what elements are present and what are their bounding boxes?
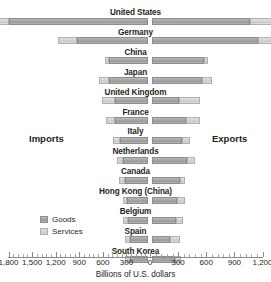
- bar-imports-goods: [9, 18, 148, 25]
- axis-tick-major: [178, 252, 179, 257]
- axis-tick-major: [56, 252, 57, 257]
- axis-tick-minor: [136, 254, 137, 257]
- bar-imports-services: [0, 18, 9, 25]
- bar-imports-goods: [109, 77, 148, 84]
- row-bars: [0, 37, 271, 44]
- row-bars: [0, 177, 271, 184]
- bar-exports-goods: [152, 18, 250, 25]
- axis-tick-minor: [257, 254, 258, 257]
- bar-exports-services: [258, 37, 271, 44]
- bar-exports-services: [177, 197, 185, 204]
- bar-imports-services: [106, 117, 115, 124]
- row-bars: [0, 97, 271, 104]
- axis-tick-major: [234, 252, 235, 257]
- country-label: Belgium: [0, 207, 271, 216]
- bar-imports-services: [58, 37, 78, 44]
- axis-tick-label: 900: [73, 258, 86, 268]
- bar-exports-services: [179, 97, 201, 104]
- axis-tick-minor: [122, 254, 123, 257]
- bar-imports-services: [113, 137, 120, 144]
- axis-tick-minor: [112, 254, 113, 257]
- legend-swatch-services: [40, 228, 48, 235]
- axis-tick-major: [103, 252, 104, 257]
- axis-tick-minor: [42, 254, 43, 257]
- country-label: Canada: [0, 167, 271, 176]
- bar-exports-services: [176, 217, 183, 224]
- bar-exports-goods: [152, 97, 179, 104]
- x-axis-title: Billions of U.S. dollars: [0, 270, 271, 279]
- country-label: Germany: [0, 28, 271, 37]
- row-bars: [0, 117, 271, 124]
- axis-tick-major: [263, 252, 264, 257]
- bar-exports-goods: [152, 77, 202, 84]
- axis-tick-minor: [51, 254, 52, 257]
- exports-direction-label: Exports: [212, 133, 247, 144]
- country-label: United Kingdom: [0, 88, 271, 97]
- axis-tick-minor: [184, 254, 185, 257]
- axis-tick-major: [79, 252, 80, 257]
- axis-tick-label: 1,200: [252, 258, 271, 268]
- bar-imports-goods: [123, 157, 148, 164]
- axis-tick-minor: [60, 254, 61, 257]
- axis-tick-major: [9, 252, 10, 257]
- axis-tick-minor: [201, 254, 202, 257]
- axis-tick-minor: [212, 254, 213, 257]
- axis-tick-minor: [93, 254, 94, 257]
- chart-row: Germany: [0, 28, 271, 48]
- country-label: China: [0, 48, 271, 57]
- bar-imports-goods: [130, 236, 148, 243]
- bar-imports-goods: [109, 57, 148, 64]
- bar-exports-services: [186, 117, 200, 124]
- chart-row: Hong Kong (China): [0, 187, 271, 207]
- row-bars: [0, 18, 271, 25]
- bar-exports-services: [202, 77, 212, 84]
- plot-area: United StatesGermanyChinaJapanUnited Kin…: [0, 8, 271, 248]
- axis-tick-minor: [131, 254, 132, 257]
- axis-tick-minor: [65, 254, 66, 257]
- axis-tick-minor: [23, 254, 24, 257]
- country-label: United States: [0, 8, 271, 17]
- axis-tick-minor: [18, 254, 19, 257]
- axis-tick-minor: [70, 254, 71, 257]
- axis-tick-minor: [84, 254, 85, 257]
- bar-imports-services: [125, 236, 130, 243]
- chart-row: Japan: [0, 68, 271, 88]
- axis-tick-label: 600: [96, 258, 109, 268]
- axis-tick-minor: [141, 254, 142, 257]
- bar-imports-services: [102, 97, 114, 104]
- bar-imports-goods: [128, 217, 148, 224]
- x-axis: 1,8001,5001,20090060030003006009001,200 …: [0, 252, 271, 282]
- axis-tick-minor: [229, 254, 230, 257]
- bar-imports-goods: [115, 97, 148, 104]
- axis-tick-minor: [156, 254, 157, 257]
- legend-label: Services: [52, 226, 83, 237]
- axis-tick-label: 900: [228, 258, 241, 268]
- row-bars: [0, 57, 271, 64]
- axis-tick-minor: [167, 254, 168, 257]
- bar-imports-goods: [127, 197, 148, 204]
- bar-imports-goods: [77, 37, 148, 44]
- axis-tick-minor: [37, 254, 38, 257]
- bar-imports-services: [117, 157, 123, 164]
- bar-imports-services: [119, 177, 125, 184]
- row-bars: [0, 77, 271, 84]
- axis-tick-minor: [246, 254, 247, 257]
- axis-tick-minor: [98, 254, 99, 257]
- chart-row: China: [0, 48, 271, 68]
- legend-swatch-goods: [40, 216, 48, 223]
- axis-tick-minor: [189, 254, 190, 257]
- axis-tick-minor: [13, 254, 14, 257]
- bar-exports-goods: [152, 57, 204, 64]
- row-bars: [0, 197, 271, 204]
- axis-tick-major: [126, 252, 127, 257]
- chart-row: United Kingdom: [0, 88, 271, 108]
- bar-imports-goods: [120, 137, 148, 144]
- bidirectional-bar-chart: United StatesGermanyChinaJapanUnited Kin…: [0, 0, 271, 282]
- country-label: Hong Kong (China): [0, 187, 271, 196]
- axis-tick-major: [32, 252, 33, 257]
- bar-exports-services: [180, 177, 185, 184]
- bar-exports-goods: [152, 137, 182, 144]
- axis-tick-major: [150, 252, 151, 257]
- axis-tick-minor: [161, 254, 162, 257]
- axis-tick-minor: [89, 254, 90, 257]
